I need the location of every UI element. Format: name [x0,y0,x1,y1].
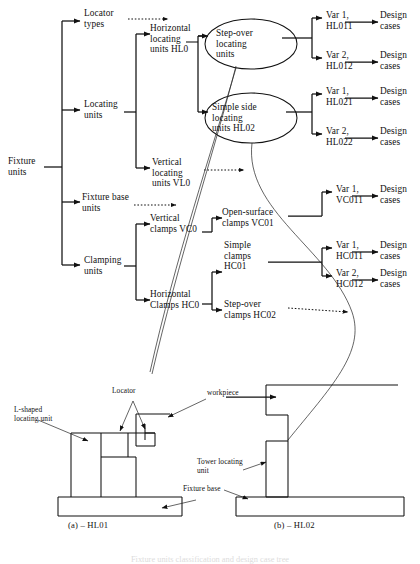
node-locator-types[interactable]: Locator types [84,8,130,29]
node-clamping-units[interactable]: Clamping units [84,255,134,276]
design-cases-7[interactable]: Design cases [380,268,420,289]
node-horizontal-locating-units-hl0[interactable]: Horizontal locating units HL0 [150,23,204,55]
node-fixture-base-units[interactable]: Fixture base units [82,192,140,213]
node-locating-units[interactable]: Locating units [84,99,130,120]
ellipse-simple-side-locating-units-hl02[interactable]: Simple side locating units HL02 [212,102,292,134]
label-locator: Locator [112,387,156,396]
tree-root-label: Fixture units [8,156,48,177]
label-l-shaped-locating-unit: L-shaped locating unit [14,406,76,423]
figure-caption: Fixture units classification and design … [0,555,420,564]
design-cases-1[interactable]: Design cases [380,10,420,31]
ellipse-step-over-locating-units[interactable]: Step-over locating units [216,28,290,60]
label-tower-locating-unit: Tower locating unit [197,458,261,475]
node-open-surface-clamps-vc01[interactable]: Open-surface clamps VC01 [222,207,292,228]
node-vertical-clamps-vc0[interactable]: Vertical clamps VC0 [150,213,204,234]
node-simple-clamps-hc01[interactable]: Simple clamps HC01 [224,240,270,272]
node-horizontal-clamps-hc0[interactable]: Horizontal Clamps HC0 [150,289,206,310]
node-step-over-clamps-hc02[interactable]: Step-over clamps HC02 [224,299,292,320]
subcaption-left: (a) – HL01 [68,520,108,530]
design-cases-2[interactable]: Design cases [380,50,420,71]
variant-hl021[interactable]: Var 1, HL021 [326,86,368,107]
design-cases-6[interactable]: Design cases [380,240,420,261]
design-cases-3[interactable]: Design cases [380,86,420,107]
label-workpiece: workpiece [207,389,253,398]
variant-hc012[interactable]: Var 2, HC012 [336,268,378,289]
variant-hl022[interactable]: Var 2, HL022 [326,126,368,147]
variant-vc011[interactable]: Var 1, VC011 [336,184,378,205]
variant-hc011[interactable]: Var 1, HC011 [336,240,378,261]
label-fixture-base: Fixture base [183,485,231,494]
variant-hl011[interactable]: Var 1, HL011 [326,10,368,31]
subcaption-right: (b) – HL02 [274,520,315,530]
design-cases-4[interactable]: Design cases [380,126,420,147]
design-cases-5[interactable]: Design cases [380,184,420,205]
variant-hl012[interactable]: Var 2, HL012 [326,50,368,71]
node-vertical-locating-units-vl0[interactable]: Vertical locating units VL0 [152,157,204,189]
